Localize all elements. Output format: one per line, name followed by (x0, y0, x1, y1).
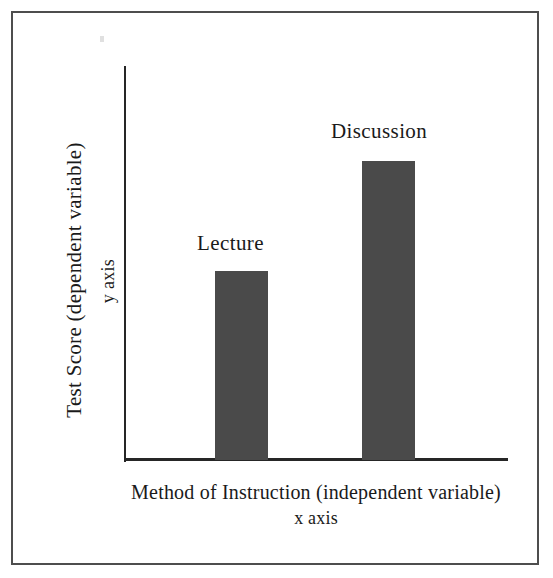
bar-label-lecture: Lecture (197, 233, 264, 254)
x-axis-title: Method of Instruction (independent varia… (124, 481, 508, 504)
bar-discussion (362, 161, 415, 460)
plot-area (124, 66, 508, 460)
y-axis-title: Test Score (dependent variable) (62, 142, 87, 417)
bar-label-discussion: Discussion (331, 121, 427, 142)
x-axis-subtitle: x axis (124, 508, 508, 529)
bar-chart-figure: Test Score (dependent variable) y axis L… (0, 0, 553, 578)
y-axis-subtitle: y axis (98, 259, 119, 303)
scan-artifact-speck (100, 36, 104, 42)
bar-lecture (215, 271, 268, 460)
